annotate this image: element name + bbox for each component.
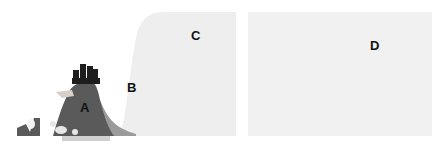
region-d-panel	[248, 12, 432, 136]
label-c: C	[191, 29, 200, 42]
base-shadow	[62, 136, 110, 141]
bulb-icon	[17, 118, 40, 136]
label-a: A	[80, 101, 89, 114]
label-b: B	[127, 81, 136, 94]
label-d: D	[370, 39, 379, 52]
region-c-shape	[120, 12, 236, 136]
diagram: A B C D	[0, 0, 443, 149]
tower-figures-icon	[72, 64, 100, 84]
